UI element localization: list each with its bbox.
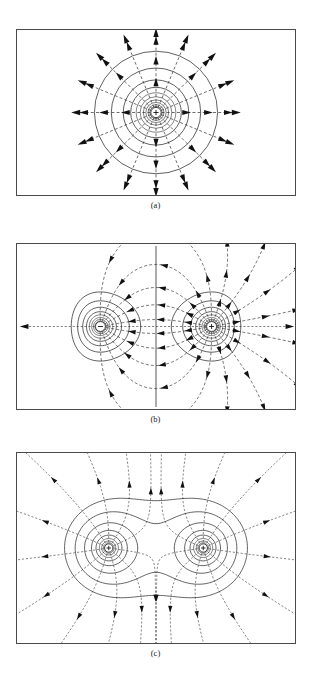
equipotential-contour-segment [78, 561, 79, 562]
equipotential-contour-segment [219, 504, 220, 505]
equipotential-contour-segment [207, 536, 208, 537]
equipotential-contour-segment [210, 541, 211, 542]
field-arrowhead [109, 390, 115, 398]
field-line [209, 549, 295, 562]
equipotential-contour-segment [220, 577, 221, 578]
equipotential-contour-segment [99, 514, 100, 515]
equipotential-contour-segment [219, 566, 220, 567]
panel-b-canvas [17, 244, 295, 409]
equipotential-contour-segment [225, 537, 226, 538]
field-arrowhead [153, 180, 158, 189]
equipotential-contour-segment [91, 565, 92, 566]
equipotential-contour-segment [180, 531, 181, 532]
equipotential-contour-segment [199, 539, 200, 540]
field-arrowhead [225, 80, 234, 86]
equipotential-contour-segment [215, 542, 216, 543]
equipotential-contour-segment [134, 516, 135, 517]
equipotential-contour-segment [122, 535, 123, 536]
equipotential-contour-segment [136, 555, 137, 556]
equipotential-contour-segment [104, 553, 105, 554]
field-arrowhead [102, 59, 110, 67]
field-arrowhead [158, 362, 166, 367]
equipotential-contour-segment [216, 527, 217, 528]
equipotential-contour-segment [96, 515, 97, 516]
equipotential-contour-segment [216, 503, 217, 504]
equipotential-contour-segment [219, 529, 220, 530]
equipotential-contour-segment [93, 555, 94, 556]
equipotential-contour-segment [208, 543, 209, 544]
equipotential-contour-segment [86, 507, 87, 508]
equipotential-contour-segment [187, 569, 188, 570]
equipotential-contour-segment [106, 552, 107, 553]
equipotential-contour-segment [218, 528, 219, 529]
equipotential-contour-segment [220, 565, 221, 566]
equipotential-contour-segment [208, 536, 209, 537]
equipotential-contour-segment [75, 577, 76, 578]
equipotential-contour-segment [208, 531, 209, 532]
equipotential-contour-segment [235, 516, 236, 517]
equipotential-contour-segment [87, 589, 88, 590]
equipotential-contour-segment [104, 551, 105, 552]
equipotential-contour-segment [112, 544, 113, 545]
equipotential-contour-segment [223, 561, 224, 562]
equipotential-contour-segment [82, 584, 83, 585]
equipotential-contour-segment [222, 533, 223, 534]
equipotential-contour-segment [216, 537, 217, 538]
field-arrowhead [157, 331, 165, 336]
equipotential-contour-segment [103, 536, 104, 537]
equipotential-contour-segment [144, 520, 145, 521]
equipotential-contour-segment [100, 552, 101, 553]
field-arrowhead [183, 181, 189, 190]
equipotential-contour-segment [104, 542, 105, 543]
equipotential-contour-segment [79, 565, 80, 566]
equipotential-contour-segment [227, 509, 228, 510]
equipotential-contour-segment [230, 583, 231, 584]
equipotential-contour-segment [113, 556, 114, 557]
equipotential-contour-segment [241, 570, 242, 571]
equipotential-contour-segment [235, 579, 236, 580]
equipotential-contour-segment [217, 516, 218, 517]
equipotential-contour-segment [131, 531, 132, 532]
field-arrowhead [206, 371, 210, 379]
equipotential-contour-segment [82, 527, 83, 528]
equipotential-contour-segment [83, 509, 84, 510]
field-arrowhead [244, 275, 250, 283]
field-arrowhead [180, 174, 186, 183]
field-arrowhead [77, 613, 82, 620]
equipotential-contour-segment [214, 554, 215, 555]
equipotential-contour-segment [89, 533, 90, 534]
equipotential-contour-segment [102, 551, 103, 552]
equipotential-contour-segment [74, 519, 75, 520]
equipotential-contour-segment [147, 574, 148, 575]
equipotential-contour-segment [210, 558, 211, 559]
equipotential-contour-segment [93, 516, 94, 517]
equipotential-contour-segment [83, 586, 84, 587]
equipotential-contour-segment [97, 542, 98, 543]
equipotential-contour-segment [71, 523, 72, 524]
equipotential-contour-segment [223, 506, 224, 507]
field-arrowhead [262, 592, 269, 598]
equipotential-contour-segment [95, 527, 96, 528]
field-arrowhead [160, 384, 168, 388]
equipotential-contour-segment [222, 532, 223, 533]
equipotential-contour-segment [116, 532, 117, 533]
equipotential-contour-segment [232, 513, 233, 514]
equipotential-contour-segment [119, 555, 120, 556]
equipotential-contour-segment [223, 520, 224, 521]
equipotential-contour-segment [70, 569, 71, 570]
field-arrowhead [127, 174, 133, 183]
equipotential-contour-segment [99, 571, 100, 572]
equipotential-contour-segment [93, 592, 94, 593]
equipotential-contour-segment [99, 557, 100, 558]
equipotential-contour-segment [201, 543, 202, 544]
equipotential-contour-segment [240, 523, 241, 524]
equipotential-contour-segment [102, 545, 103, 546]
equipotential-contour-segment [211, 538, 212, 539]
field-arrowhead [153, 36, 158, 45]
equipotential-contour-segment [192, 533, 193, 534]
equipotential-contour-segment [205, 552, 206, 553]
equipotential-contour-segment [230, 568, 231, 569]
equipotential-contour-segment [217, 503, 218, 504]
equipotential-contour-segment [198, 560, 199, 561]
equipotential-contour-segment [128, 529, 129, 530]
